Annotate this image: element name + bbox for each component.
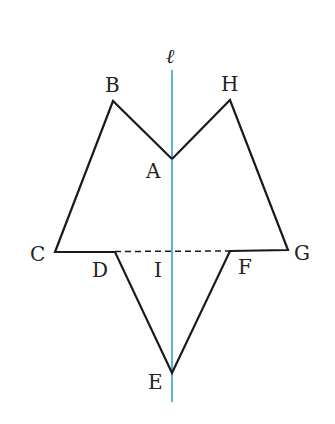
point-label-a: A [145, 159, 161, 183]
point-label-c: C [30, 242, 45, 266]
point-label-e: E [148, 370, 163, 394]
symmetry-diagram: ℓ B H A C D I F G E [0, 0, 335, 424]
point-label-f: F [238, 255, 252, 279]
point-label-h: H [221, 72, 238, 96]
point-label-b: B [105, 73, 120, 97]
axis-label: ℓ [166, 44, 175, 68]
point-label-i: I [154, 258, 162, 282]
point-label-g: G [294, 241, 310, 265]
point-label-d: D [92, 258, 108, 282]
